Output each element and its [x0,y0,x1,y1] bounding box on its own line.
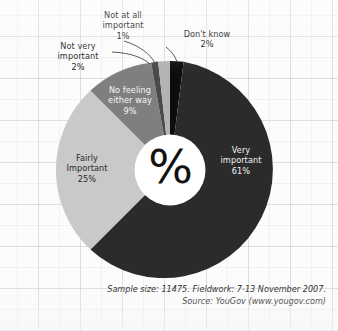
label-text: No feeling [94,85,166,95]
label-value: 61% [208,166,274,176]
label-value: 9% [94,106,166,116]
label-value: 25% [52,174,122,184]
label-text: Not very [44,41,112,51]
label-not-at-all-important: Not at all important 1% [88,10,158,41]
label-text: important [208,155,274,165]
label-fairly-important: Fairly Important 25% [52,153,122,184]
chart-canvas: Not at all important 1% Not very importa… [0,0,338,331]
label-value: 2% [166,39,248,49]
percent-symbol: % [136,133,204,199]
label-text: Fairly [52,153,122,163]
label-text: Don't know [166,29,248,39]
label-value: 1% [88,31,158,41]
footnote-source: Source: YouGov (www.yougov.com) [0,295,326,307]
leader-line-not-at-all [124,41,155,63]
label-text: Very [208,145,274,155]
label-value: 2% [44,62,112,72]
label-text: important [88,20,158,30]
chart-footnote: Sample size: 11475. Fieldwork: 7-13 Nove… [0,283,326,307]
label-not-very-important: Not very important 2% [44,41,112,72]
leader-line-not-very [112,52,150,64]
label-text: Not at all [88,10,158,20]
label-text: either way [94,95,166,105]
label-text: Important [52,163,122,173]
label-no-feeling-either-way: No feeling either way 9% [94,85,166,116]
label-very-important: Very important 61% [208,145,274,176]
footnote-sample-size: Sample size: 11475. Fieldwork: 7-13 Nove… [0,283,326,295]
label-dont-know: Don't know 2% [166,29,248,50]
label-text: important [44,51,112,61]
